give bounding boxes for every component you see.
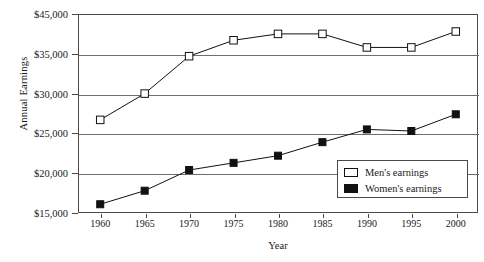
y-axis-tick-mark bbox=[72, 213, 78, 214]
open-square-marker-icon bbox=[344, 168, 358, 177]
filled-square-marker-icon bbox=[344, 184, 358, 193]
x-axis-tick-label: 1990 bbox=[347, 218, 387, 229]
x-axis-tick-label: 1970 bbox=[169, 218, 209, 229]
x-axis-tick-label: 1975 bbox=[214, 218, 254, 229]
x-axis-tick-label: 1985 bbox=[302, 218, 342, 229]
earnings-line-chart: Annual Earnings $45,000$35,000$30,000$25… bbox=[0, 0, 484, 262]
legend-item-mens: Men's earnings bbox=[344, 164, 462, 180]
legend: Men's earnings Women's earnings bbox=[337, 160, 468, 198]
legend-item-womens: Women's earnings bbox=[344, 180, 462, 196]
legend-label: Men's earnings bbox=[365, 167, 428, 178]
x-axis-tick-label: 2000 bbox=[436, 218, 476, 229]
x-axis-tick-label: 1965 bbox=[125, 218, 165, 229]
gridline bbox=[79, 134, 479, 135]
y-axis-tick-label: $30,000 bbox=[0, 88, 68, 99]
legend-label: Women's earnings bbox=[365, 183, 442, 194]
x-axis-tick-label: 1995 bbox=[391, 218, 431, 229]
x-axis-tick-label: 1980 bbox=[258, 218, 298, 229]
y-axis-tick-label: $25,000 bbox=[0, 128, 68, 139]
x-axis-title: Year bbox=[78, 240, 478, 251]
gridline bbox=[79, 55, 479, 56]
x-axis-tick-label: 1960 bbox=[80, 218, 120, 229]
y-axis-tick-label: $45,000 bbox=[0, 9, 68, 20]
gridline bbox=[79, 95, 479, 96]
y-axis-tick-label: $15,000 bbox=[0, 208, 68, 219]
y-axis-tick-label: $20,000 bbox=[0, 168, 68, 179]
y-axis-tick-label: $35,000 bbox=[0, 48, 68, 59]
